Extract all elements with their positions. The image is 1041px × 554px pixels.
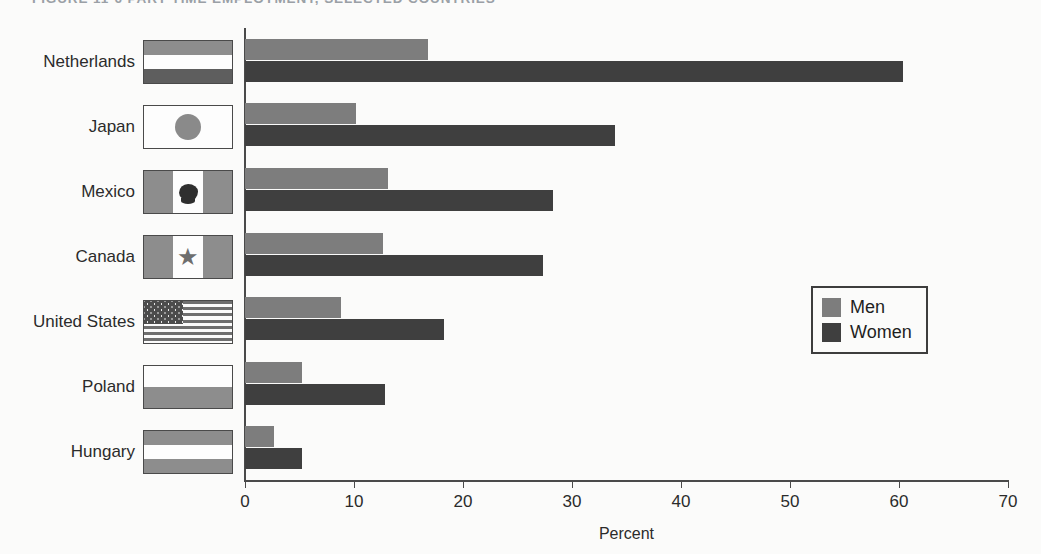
legend: Men Women bbox=[811, 286, 928, 354]
flag-canton bbox=[144, 301, 183, 324]
legend-entry-men: Men bbox=[822, 295, 912, 320]
flag-stripe bbox=[144, 387, 232, 408]
category-row-mexico: Mexico bbox=[0, 169, 233, 215]
bar-japan-men bbox=[245, 103, 356, 124]
category-row-japan: Japan bbox=[0, 104, 233, 150]
x-tick-label: 40 bbox=[672, 492, 691, 512]
flag-hungary-icon bbox=[143, 430, 233, 474]
category-row-poland: Poland bbox=[0, 364, 233, 410]
x-tick bbox=[899, 480, 900, 488]
x-tick-label: 10 bbox=[345, 492, 364, 512]
figure-container: FIGURE 11-6 PART-TIME EMPLOYMENT, SELECT… bbox=[0, 0, 1041, 554]
legend-label-men: Men bbox=[850, 297, 885, 318]
flag-canada-icon: ★ bbox=[143, 235, 233, 279]
category-row-hungary: Hungary bbox=[0, 429, 233, 475]
bar-mexico-men bbox=[245, 168, 388, 189]
page-title: FIGURE 11-6 PART-TIME EMPLOYMENT, SELECT… bbox=[32, 0, 496, 9]
flag-stripe bbox=[144, 459, 232, 473]
bar-poland-women bbox=[245, 384, 385, 405]
category-row-united-states: United States bbox=[0, 299, 233, 345]
x-tick-label: 20 bbox=[454, 492, 473, 512]
flag-stripe bbox=[144, 366, 232, 387]
category-label-mexico: Mexico bbox=[81, 182, 143, 201]
bar-japan-women bbox=[245, 125, 615, 146]
flag-stripe bbox=[144, 69, 232, 83]
category-label-netherlands: Netherlands bbox=[43, 52, 143, 71]
x-tick-label: 30 bbox=[563, 492, 582, 512]
x-axis-line bbox=[244, 480, 1008, 482]
flag-netherlands-icon bbox=[143, 40, 233, 84]
bar-netherlands-men bbox=[245, 39, 428, 60]
bar-united-states-women bbox=[245, 319, 444, 340]
category-label-canada: Canada bbox=[75, 247, 143, 266]
bar-canada-women bbox=[245, 255, 543, 276]
bar-united-states-men bbox=[245, 297, 341, 318]
x-tick bbox=[354, 480, 355, 488]
bar-poland-men bbox=[245, 362, 302, 383]
bar-canada-men bbox=[245, 233, 383, 254]
x-tick-label: 60 bbox=[890, 492, 909, 512]
x-tick bbox=[681, 480, 682, 488]
flag-united-states-icon bbox=[143, 300, 233, 344]
x-tick bbox=[790, 480, 791, 488]
x-tick bbox=[463, 480, 464, 488]
category-label-united-states: United States bbox=[33, 312, 143, 331]
x-tick bbox=[572, 480, 573, 488]
bar-netherlands-women bbox=[245, 61, 903, 82]
flag-mexico-icon bbox=[143, 170, 233, 214]
x-tick bbox=[1008, 480, 1009, 488]
flag-stripe bbox=[144, 431, 232, 445]
flag-stripe bbox=[144, 41, 232, 55]
category-row-canada: Canada ★ bbox=[0, 234, 233, 280]
legend-label-women: Women bbox=[850, 322, 912, 343]
category-label-japan: Japan bbox=[89, 117, 143, 136]
flag-stripe bbox=[144, 445, 232, 459]
flag-stripe bbox=[144, 236, 173, 278]
category-row-netherlands: Netherlands bbox=[0, 39, 233, 85]
x-tick-label: 0 bbox=[240, 492, 249, 512]
flag-emblem bbox=[179, 184, 198, 201]
category-label-poland: Poland bbox=[82, 377, 143, 396]
legend-swatch-women bbox=[822, 323, 841, 342]
flag-stripe bbox=[203, 236, 232, 278]
flag-disc bbox=[175, 114, 201, 140]
legend-entry-women: Women bbox=[822, 320, 912, 345]
legend-swatch-men bbox=[822, 298, 841, 317]
x-axis-title: Percent bbox=[245, 525, 1008, 543]
x-tick-label: 50 bbox=[781, 492, 800, 512]
flag-stripe bbox=[203, 171, 232, 213]
x-tick-label: 70 bbox=[999, 492, 1018, 512]
bar-mexico-women bbox=[245, 190, 553, 211]
flag-japan-icon bbox=[143, 105, 233, 149]
category-label-hungary: Hungary bbox=[71, 442, 143, 461]
bar-hungary-men bbox=[245, 426, 274, 447]
flag-poland-icon bbox=[143, 365, 233, 409]
bar-hungary-women bbox=[245, 448, 302, 469]
flag-stripe bbox=[144, 171, 173, 213]
plot-area: 010203040506070 Percent bbox=[245, 28, 1008, 480]
x-tick bbox=[245, 480, 246, 488]
flag-stripe bbox=[144, 55, 232, 69]
